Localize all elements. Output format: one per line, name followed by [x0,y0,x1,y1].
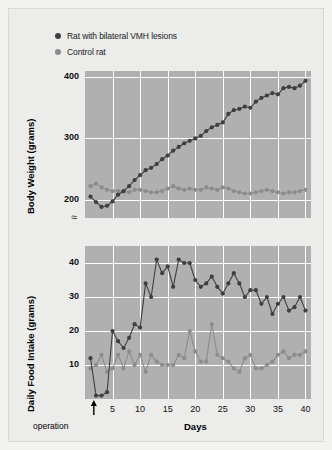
data-point [105,204,109,208]
data-point [298,353,302,357]
data-point [116,353,120,357]
data-point [193,188,197,192]
data-point [210,187,214,191]
data-point [155,162,159,166]
data-point [160,157,164,161]
data-point [88,194,92,198]
data-point [188,329,192,333]
data-point [155,360,159,364]
data-point [292,190,296,194]
data-point [287,85,291,89]
data-point [149,166,153,170]
data-point [226,112,230,116]
data-point [155,258,159,262]
data-point [121,346,125,350]
data-point [127,184,131,188]
data-point [215,123,219,127]
data-point [303,309,307,313]
x-tick-label: 25 [213,404,233,414]
data-point [292,353,296,357]
data-point [177,353,181,357]
data-point [298,84,302,88]
data-point [221,120,225,124]
data-point [237,370,241,374]
data-point [204,129,208,133]
operation-annotation-label: operation [33,421,68,431]
operation-arrow-icon [91,400,97,415]
data-point [127,336,131,340]
data-point [166,187,170,191]
data-point [254,100,258,104]
y-tick-label: 10 [49,359,79,369]
data-point [243,295,247,299]
y-tick-label: 30 [49,291,79,301]
x-tick-label: 30 [240,404,260,414]
data-point [292,305,296,309]
data-point [166,153,170,157]
data-point [110,366,114,370]
data-point [276,92,280,96]
data-point [248,288,252,292]
data-point [303,188,307,192]
data-point [276,353,280,357]
data-point [149,353,153,357]
data-point [254,288,258,292]
data-point [204,185,208,189]
data-point [166,264,170,268]
data-point [259,302,263,306]
data-point [182,141,186,145]
data-point [149,190,153,194]
data-point [133,188,137,192]
x-axis-title: Days [184,421,207,432]
data-point [188,261,192,265]
data-point [193,278,197,282]
data-point [155,190,159,194]
data-point [270,360,274,364]
data-point [160,363,164,367]
data-point [121,189,125,193]
data-point [188,187,192,191]
data-point [243,104,247,108]
data-point [144,168,148,172]
data-point [265,295,269,299]
data-point [110,189,114,193]
data-point [127,190,131,194]
data-point [215,353,219,357]
data-point [105,390,109,394]
data-point [215,188,219,192]
data-point [94,182,98,186]
data-point [281,191,285,195]
data-point [281,295,285,299]
y-tick-label: 20 [49,325,79,335]
data-point [94,200,98,204]
data-point [166,363,170,367]
data-point [199,188,203,192]
series-line [91,260,306,396]
panel-body-weight: Body Weight (grams) ≈ 200300400 [9,9,325,234]
data-point [270,312,274,316]
data-point [160,271,164,275]
data-point [133,363,137,367]
data-point [171,363,175,367]
data-point [138,353,142,357]
data-point [248,353,252,357]
data-point [99,394,103,398]
data-point [138,173,142,177]
data-point [105,188,109,192]
data-point [265,363,269,367]
y-tick-label: 400 [49,71,79,81]
data-point [232,366,236,370]
data-point [232,271,236,275]
data-point [237,107,241,111]
data-point [232,189,236,193]
data-point [144,189,148,193]
x-tick-label: 40 [295,404,315,414]
data-point [177,187,181,191]
data-point [292,86,296,90]
data-point [199,134,203,138]
data-point [259,96,263,100]
data-point [298,295,302,299]
data-point [110,329,114,333]
panel-food-intake: Daily Food Intake (grams) Days operation… [9,234,325,443]
data-point [248,191,252,195]
